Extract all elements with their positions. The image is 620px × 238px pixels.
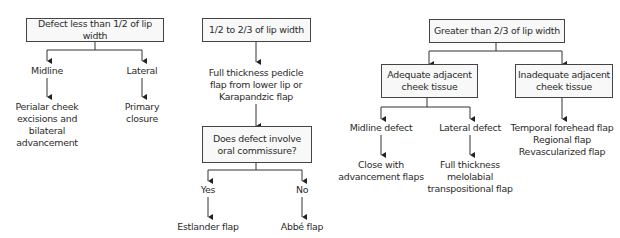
- estlander-flap-result: Estlander flap: [177, 221, 238, 233]
- lip-defect-flowchart: Defect less than 1/2 of lip width Midlin…: [0, 0, 620, 238]
- root-label: Greater than 2/3 of lip width: [434, 25, 560, 37]
- no-label: No: [296, 184, 308, 196]
- primary-closure-result: Primary closure: [125, 101, 159, 125]
- root-box-greater-than-two-thirds: Greater than 2/3 of lip width: [429, 19, 565, 43]
- abbe-flap-result: Abbé flap: [281, 221, 323, 233]
- midline-label: Midline: [31, 65, 63, 77]
- yes-label: Yes: [201, 184, 215, 196]
- adequate-cheek-box: Adequate adjacent cheek tissue: [381, 64, 478, 98]
- melolabial-flap-result: Full thickness melolabial transpositiona…: [427, 159, 512, 195]
- commissure-question-box: Does defect involve oral commissure?: [202, 126, 312, 163]
- inadequate-cheek-box: Inadequate adjacent cheek tissue: [515, 64, 613, 98]
- advancement-flaps-result: Close with advancement flaps: [338, 159, 424, 183]
- lateral-label: Lateral: [127, 65, 158, 77]
- pedicle-flap-step: Full thickness pedicle flap from lower l…: [209, 67, 304, 103]
- root-label: Defect less than 1/2 of lip width: [27, 18, 163, 42]
- root-box-half-to-two-thirds: 1/2 to 2/3 of lip width: [202, 18, 311, 42]
- perialar-result: Perialar cheek excisions and bilateral a…: [15, 101, 78, 149]
- midline-defect-label: Midline defect: [350, 122, 413, 134]
- inadequate-options-result: Temporal forehead flap Regional flap Rev…: [511, 122, 614, 158]
- lateral-defect-label: Lateral defect: [439, 122, 501, 134]
- root-box-less-than-half: Defect less than 1/2 of lip width: [26, 18, 164, 42]
- root-label: 1/2 to 2/3 of lip width: [209, 24, 304, 36]
